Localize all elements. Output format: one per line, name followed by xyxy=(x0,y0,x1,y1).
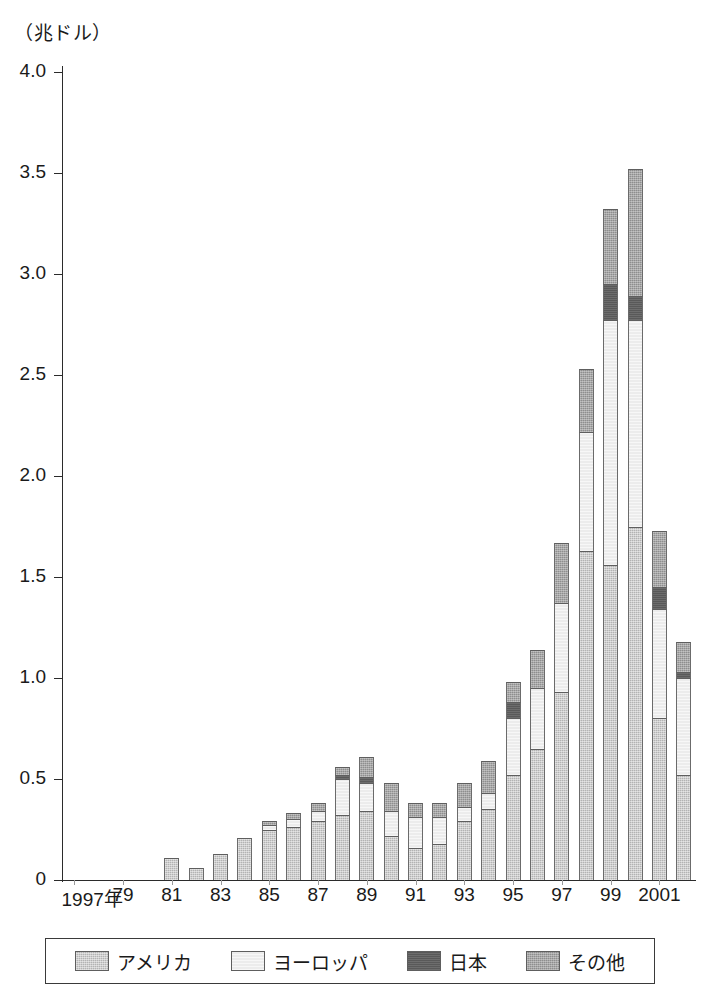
bar-column xyxy=(652,531,667,880)
bar-segment-europe xyxy=(335,779,350,815)
bar-segment-other xyxy=(481,761,496,793)
legend-swatch-japan xyxy=(407,951,441,971)
bar-column xyxy=(506,682,521,880)
bar-segment-europe xyxy=(652,609,667,718)
bar-column xyxy=(237,838,252,880)
bar-segment-america xyxy=(628,527,643,881)
bar-column xyxy=(213,854,228,880)
bar-column xyxy=(286,813,301,880)
bar-segment-japan xyxy=(603,284,618,320)
bar-segment-europe xyxy=(603,320,618,564)
legend-item-europe: ヨーロッパ xyxy=(231,948,368,975)
bar-column xyxy=(481,761,496,880)
bar-segment-america xyxy=(262,830,277,881)
bar-segment-europe xyxy=(384,811,399,835)
bar-column xyxy=(359,757,374,880)
bar-segment-other xyxy=(384,783,399,811)
bar-column xyxy=(164,858,179,880)
bar-column xyxy=(530,650,545,880)
bar-segment-america xyxy=(384,836,399,880)
legend-swatch-other xyxy=(526,951,560,971)
bar-column xyxy=(676,642,691,880)
bar-column xyxy=(554,543,569,880)
bar-segment-america xyxy=(506,775,521,880)
bar-segment-europe xyxy=(408,817,423,847)
bar-segment-japan xyxy=(506,702,521,718)
bar-column xyxy=(311,803,326,880)
bars-layer xyxy=(0,0,707,1004)
bar-segment-other xyxy=(457,783,472,807)
bar-segment-europe xyxy=(481,793,496,809)
bar-segment-japan xyxy=(628,296,643,320)
bar-segment-america xyxy=(579,551,594,880)
bar-column xyxy=(603,209,618,880)
bar-segment-america xyxy=(359,811,374,880)
bar-segment-other xyxy=(652,531,667,588)
bar-segment-europe xyxy=(359,783,374,811)
bar-segment-america xyxy=(652,718,667,880)
bar-segment-america xyxy=(457,821,472,880)
bar-segment-other xyxy=(311,803,326,811)
legend-label: ヨーロッパ xyxy=(273,948,368,975)
bar-column xyxy=(384,783,399,880)
bar-segment-america xyxy=(408,848,423,880)
legend-item-america: アメリカ xyxy=(75,948,192,975)
bar-column xyxy=(457,783,472,880)
bar-segment-other xyxy=(603,209,618,284)
bar-segment-europe xyxy=(676,678,691,775)
bar-segment-other xyxy=(432,803,447,817)
bar-segment-america xyxy=(213,854,228,880)
bar-segment-america xyxy=(335,815,350,880)
bar-segment-europe xyxy=(432,817,447,843)
bar-segment-america xyxy=(164,858,179,880)
bar-segment-europe xyxy=(554,603,569,692)
bar-column xyxy=(408,803,423,880)
bar-column xyxy=(432,803,447,880)
bar-column xyxy=(189,868,204,880)
bar-segment-america xyxy=(676,775,691,880)
bar-segment-other xyxy=(359,757,374,777)
bar-segment-europe xyxy=(530,688,545,749)
bar-segment-europe xyxy=(628,320,643,526)
bar-column xyxy=(262,821,277,880)
bar-column xyxy=(335,767,350,880)
legend-item-other: その他 xyxy=(526,948,625,975)
bar-segment-europe xyxy=(457,807,472,821)
bar-segment-america xyxy=(189,868,204,880)
legend-label: その他 xyxy=(568,948,625,975)
bar-segment-europe xyxy=(506,718,521,775)
bar-segment-other xyxy=(554,543,569,604)
bar-segment-america xyxy=(554,692,569,880)
bar-segment-other xyxy=(628,169,643,296)
chart-legend: アメリカヨーロッパ日本その他 xyxy=(45,938,655,984)
bar-segment-europe xyxy=(311,811,326,821)
bar-segment-other xyxy=(335,767,350,775)
bar-segment-america xyxy=(237,838,252,880)
bar-column xyxy=(579,369,594,880)
legend-item-japan: 日本 xyxy=(407,948,487,975)
bar-segment-japan xyxy=(652,587,667,609)
bar-segment-america xyxy=(286,827,301,880)
bar-column xyxy=(628,169,643,880)
bar-segment-other xyxy=(579,369,594,432)
bar-segment-america xyxy=(603,565,618,880)
chart-figure: （兆ドル） 00.51.01.52.02.53.03.54.0 1997年798… xyxy=(0,0,707,1004)
legend-swatch-europe xyxy=(231,951,265,971)
bar-segment-other xyxy=(408,803,423,817)
legend-label: 日本 xyxy=(449,948,487,975)
legend-label: アメリカ xyxy=(117,948,192,975)
bar-segment-america xyxy=(530,749,545,880)
bar-segment-america xyxy=(481,809,496,880)
bar-segment-other xyxy=(506,682,521,702)
legend-swatch-america xyxy=(75,951,109,971)
bar-segment-other xyxy=(676,642,691,672)
bar-segment-america xyxy=(311,821,326,880)
bar-segment-america xyxy=(432,844,447,880)
bar-segment-europe xyxy=(579,432,594,551)
bar-segment-europe xyxy=(286,819,301,827)
bar-segment-other xyxy=(530,650,545,688)
